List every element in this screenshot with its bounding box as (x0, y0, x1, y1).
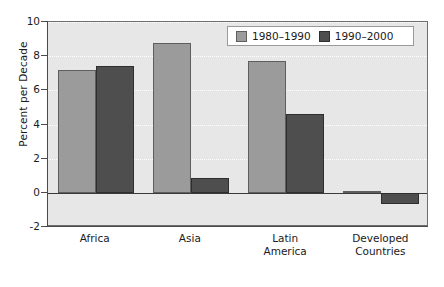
y-tick-10 (41, 21, 48, 22)
gridline-10 (48, 22, 427, 23)
y-tick-2 (41, 158, 48, 159)
bar-africa-1990–2000 (96, 66, 134, 193)
legend-swatch-icon-1980-1990 (236, 31, 247, 42)
x-label-asia: Asia (140, 232, 240, 245)
gridline--2 (48, 227, 427, 228)
y-tick-label-0: 0 (0, 186, 40, 198)
x-label-latin-america: LatinAmerica (235, 232, 335, 257)
y-tick-6 (41, 89, 48, 90)
bar-developed-countries-1990–2000 (381, 193, 419, 204)
y-tick-4 (41, 124, 48, 125)
legend-item-1980-1990: 1980–1990 (236, 30, 311, 42)
bar-africa-1980–1990 (58, 70, 96, 193)
legend: 1980–1990 1990–2000 (227, 26, 414, 46)
x-label-developed-countries: DevelopedCountries (330, 232, 430, 257)
y-axis-title: Percent per Decade (17, 24, 29, 164)
plot-area (47, 21, 428, 226)
bar-developed-countries-1980–1990 (343, 191, 381, 193)
legend-label-1990-2000: 1990–2000 (335, 30, 394, 42)
y-tick-8 (41, 55, 48, 56)
y-tick-label--2: -2 (0, 220, 40, 232)
bar-asia-1990–2000 (191, 178, 229, 193)
bar-latin-america-1980–1990 (248, 61, 286, 193)
legend-swatch-icon-1990-2000 (319, 31, 330, 42)
bar-asia-1980–1990 (153, 43, 191, 192)
x-axis-line (47, 226, 428, 227)
legend-item-1990-2000: 1990–2000 (319, 30, 394, 42)
gridline-8 (48, 56, 427, 57)
legend-label-1980-1990: 1980–1990 (252, 30, 311, 42)
y-tick--2 (41, 226, 48, 227)
y-tick-0 (41, 192, 48, 193)
x-label-africa: Africa (45, 232, 145, 245)
bar-chart: -20246810 Percent per Decade AfricaAsiaL… (0, 0, 444, 287)
bar-latin-america-1990–2000 (286, 114, 324, 193)
